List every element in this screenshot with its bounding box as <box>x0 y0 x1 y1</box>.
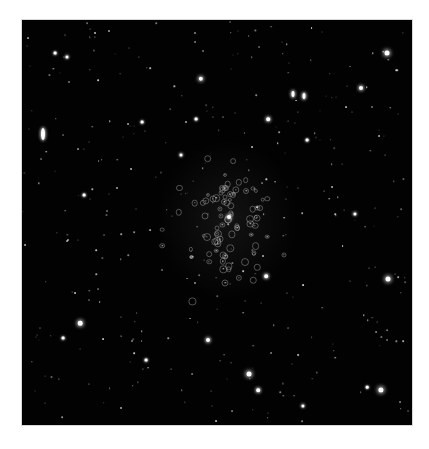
faint-star <box>343 209 344 210</box>
faint-star <box>270 352 272 354</box>
faint-star <box>251 56 253 58</box>
faint-star <box>230 69 231 70</box>
faint-star <box>27 37 29 39</box>
faint-star <box>98 161 100 163</box>
faint-star <box>243 270 245 272</box>
faint-star <box>232 55 233 56</box>
faint-star <box>378 135 380 137</box>
cluster-star-ring <box>213 237 221 245</box>
faint-star <box>129 362 130 363</box>
faint-star <box>130 125 131 126</box>
faint-star <box>191 373 193 375</box>
faint-star <box>283 217 285 219</box>
faint-star <box>319 139 320 140</box>
faint-star <box>279 391 281 393</box>
faint-star <box>229 284 230 285</box>
faint-star <box>54 170 55 171</box>
faint-star <box>311 27 313 29</box>
faint-star <box>204 259 205 260</box>
faint-star <box>135 209 136 210</box>
bright-star <box>366 386 369 389</box>
faint-star <box>335 96 336 97</box>
faint-star <box>181 389 183 391</box>
faint-star <box>197 321 199 323</box>
faint-star <box>397 276 399 278</box>
faint-star <box>248 36 250 38</box>
faint-star <box>77 148 79 150</box>
cluster-star-ring <box>204 155 212 163</box>
faint-star <box>407 410 409 412</box>
faint-star <box>192 181 193 182</box>
faint-star <box>186 278 188 280</box>
faint-star <box>130 168 132 170</box>
faint-star <box>227 223 229 225</box>
faint-star <box>101 159 103 161</box>
faint-star <box>389 107 391 109</box>
faint-star <box>386 339 388 341</box>
bright-star <box>247 372 252 377</box>
faint-star <box>395 69 397 71</box>
faint-star <box>115 54 116 55</box>
faint-star <box>196 226 198 228</box>
faint-star <box>40 158 42 160</box>
faint-star <box>68 81 70 83</box>
faint-star <box>364 226 366 228</box>
cluster-haze <box>22 20 412 425</box>
bright-star <box>206 338 210 342</box>
faint-star <box>375 266 376 267</box>
faint-star <box>202 167 204 169</box>
faint-star <box>219 360 221 362</box>
faint-star <box>252 409 254 411</box>
faint-star <box>45 281 47 283</box>
faint-star <box>79 348 80 349</box>
faint-star <box>262 255 264 257</box>
faint-star <box>61 416 63 418</box>
faint-star <box>301 420 303 422</box>
faint-star <box>321 307 323 309</box>
faint-star <box>147 367 149 369</box>
faint-star <box>267 417 269 419</box>
faint-star <box>360 392 362 394</box>
faint-star <box>74 292 76 294</box>
faint-star <box>334 357 336 359</box>
faint-star <box>103 338 105 340</box>
faint-star <box>172 216 173 217</box>
faint-star <box>294 395 296 397</box>
bright-star <box>227 215 231 219</box>
faint-star <box>375 208 376 209</box>
faint-star <box>349 66 351 68</box>
faint-star <box>288 327 290 329</box>
faint-star <box>116 187 118 189</box>
faint-star <box>297 354 299 356</box>
faint-star <box>90 199 91 200</box>
faint-star <box>244 132 246 134</box>
bright-star <box>78 321 83 326</box>
faint-star <box>329 198 331 200</box>
faint-star <box>378 130 379 131</box>
faint-star <box>38 339 39 340</box>
bright-star <box>145 359 148 362</box>
faint-star <box>202 50 204 52</box>
faint-star <box>149 67 151 69</box>
faint-star <box>108 30 110 32</box>
faint-star <box>99 301 101 303</box>
faint-star <box>223 354 225 356</box>
faint-star <box>311 336 313 338</box>
cluster-star-ring <box>230 191 236 197</box>
faint-star <box>194 32 196 34</box>
bright-star <box>306 139 309 142</box>
faint-star <box>331 186 333 188</box>
faint-star <box>146 67 148 69</box>
star-field-image <box>22 20 412 425</box>
faint-star <box>242 312 244 314</box>
faint-star <box>229 21 231 23</box>
faint-star <box>121 335 123 337</box>
faint-star <box>295 100 297 102</box>
faint-star <box>205 104 207 106</box>
faint-star <box>120 233 122 235</box>
faint-star <box>132 339 134 341</box>
faint-star <box>345 107 347 109</box>
faint-star <box>198 274 200 276</box>
faint-star <box>285 152 286 153</box>
cluster-star-ring <box>246 215 254 223</box>
